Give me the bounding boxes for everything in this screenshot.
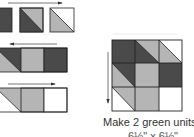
light-white-diag-square [0, 88, 21, 112]
strip-3 [0, 84, 67, 112]
dark-square [0, 8, 12, 32]
dark-light-diag-square [20, 8, 43, 32]
white-square [44, 88, 67, 112]
caption-line-2: 6½" x 6½" [128, 130, 178, 137]
light-square [21, 48, 44, 72]
strip-1 [0, 3, 74, 32]
dark-square [44, 48, 67, 72]
light-white-diag-square [50, 8, 74, 32]
light-square [21, 88, 44, 112]
light-dark-diag-square [0, 48, 21, 72]
strip-2 [0, 44, 67, 72]
assembled-block [108, 34, 182, 111]
caption-line-1: Make 2 green units, [103, 116, 194, 129]
